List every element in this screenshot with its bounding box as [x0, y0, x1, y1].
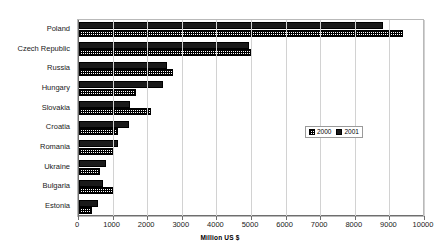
gridline [286, 20, 287, 216]
x-tick-label: 2000 [138, 220, 155, 230]
legend-item-2001: 2001 [336, 128, 358, 136]
y-axis-label-hungary: Hungary [42, 83, 70, 92]
bar-chart: PolandCzech RepublicRussiaHungarySlovaki… [0, 0, 440, 251]
bar-2001 [79, 42, 249, 49]
x-axis-title: Million US $ [0, 234, 440, 241]
y-axis-label-romania: Romania [40, 142, 70, 151]
x-axis-tick-labels: 0100020003000400050006000700080009000100… [0, 220, 440, 232]
y-axis-category-labels: PolandCzech RepublicRussiaHungarySlovaki… [0, 19, 74, 217]
gridline [320, 20, 321, 216]
y-axis-label-bulgaria: Bulgaria [42, 181, 70, 190]
bar-2001 [79, 101, 130, 108]
bar-2001 [79, 160, 106, 167]
bar-2000 [79, 148, 114, 155]
bar-2001 [79, 121, 129, 128]
x-tick-label: 3000 [172, 220, 189, 230]
bar-2000 [79, 187, 114, 194]
x-tick-label: 5000 [242, 220, 259, 230]
y-axis-label-ukraine: Ukraine [44, 162, 70, 171]
bar-2000 [79, 69, 173, 76]
x-tick-label: 7000 [311, 220, 328, 230]
gridline [113, 20, 114, 216]
clipped-top-text [0, 0, 440, 6]
legend-label-2001: 2001 [344, 128, 358, 136]
plot-area [77, 19, 424, 217]
bar-2001 [79, 200, 98, 207]
legend-label-2000: 2000 [317, 128, 331, 136]
bar-2000 [79, 89, 136, 96]
legend-swatch-2000-icon [309, 129, 315, 135]
bar-2001 [79, 22, 383, 29]
bar-2000 [79, 49, 252, 56]
y-axis-label-poland: Poland [47, 24, 70, 33]
gridline [389, 20, 390, 216]
x-tick-label: 10000 [413, 220, 434, 230]
y-axis-label-croatia: Croatia [46, 122, 70, 131]
x-tick-label: 0 [75, 220, 79, 230]
gridline [355, 20, 356, 216]
gridline [216, 20, 217, 216]
y-axis-label-slovakia: Slovakia [42, 103, 70, 112]
bar-2001 [79, 81, 163, 88]
x-tick-label: 6000 [276, 220, 293, 230]
gridline [182, 20, 183, 216]
bar-2001 [79, 180, 103, 187]
legend-swatch-2001-icon [336, 129, 342, 135]
chart-legend: 2000 2001 [305, 126, 363, 138]
x-tick-label: 8000 [345, 220, 362, 230]
bar-2000 [79, 207, 92, 214]
y-axis-label-estonia: Estonia [45, 201, 70, 210]
x-tick-label: 9000 [380, 220, 397, 230]
bar-2001 [79, 62, 167, 69]
y-axis-label-russia: Russia [47, 63, 70, 72]
bar-2000 [79, 108, 151, 115]
y-axis-label-czech-republic: Czech Republic [17, 44, 70, 53]
bar-2000 [79, 168, 100, 175]
x-tick-label: 1000 [103, 220, 120, 230]
x-tick-label: 4000 [207, 220, 224, 230]
legend-item-2000: 2000 [309, 128, 331, 136]
gridline [424, 20, 425, 216]
gridline [147, 20, 148, 216]
gridline [251, 20, 252, 216]
